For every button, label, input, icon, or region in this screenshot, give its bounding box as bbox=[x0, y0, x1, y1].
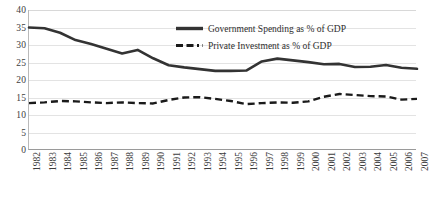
y-axis-tick-label: 15 bbox=[16, 93, 26, 103]
x-axis-tick-label: 1984 bbox=[63, 152, 73, 171]
y-axis-tick-label: 40 bbox=[16, 5, 26, 15]
y-axis-tick-label: 35 bbox=[16, 23, 26, 33]
legend-item-government-spending: Government Spending as % of GDP bbox=[176, 20, 386, 37]
y-axis-tick-label: 20 bbox=[16, 75, 26, 85]
x-axis-tick-label: 1983 bbox=[48, 152, 58, 171]
x-axis-tick-label: 1990 bbox=[156, 152, 166, 171]
y-axis-tick-label: 25 bbox=[16, 58, 26, 68]
legend-label-private-investment: Private Investment as % of GDP bbox=[208, 41, 332, 51]
x-axis-tick-label: 2000 bbox=[311, 152, 321, 171]
x-axis-tick-label: 2006 bbox=[404, 152, 414, 171]
series-private-investment-line bbox=[29, 94, 417, 104]
x-axis-tick-label: 2002 bbox=[342, 152, 352, 171]
x-axis-tick-label: 1994 bbox=[218, 152, 228, 171]
y-axis-tick-label: 10 bbox=[16, 110, 26, 120]
y-axis-tick-label: 0 bbox=[21, 145, 26, 155]
x-axis-tick-label: 1991 bbox=[172, 152, 182, 171]
x-axis-tick-label: 1995 bbox=[234, 152, 244, 171]
x-axis-tick-label: 1992 bbox=[187, 152, 197, 171]
x-axis-tick-label: 2005 bbox=[389, 152, 399, 171]
x-axis-tick-label: 1988 bbox=[125, 152, 135, 171]
x-axis-tick-label: 1998 bbox=[280, 152, 290, 171]
x-axis-tick-label: 2003 bbox=[358, 152, 368, 171]
chart-legend: Government Spending as % of GDP Private … bbox=[176, 20, 386, 54]
x-axis-tick-label: 1982 bbox=[32, 152, 42, 171]
x-axis-tick-labels: 1982198319841985198619871988198919901991… bbox=[28, 152, 416, 197]
x-axis-tick-label: 1985 bbox=[79, 152, 89, 171]
x-axis-tick-label: 2001 bbox=[327, 152, 337, 171]
x-axis-tick-label: 2007 bbox=[420, 152, 430, 171]
x-axis-tick-label: 1986 bbox=[94, 152, 104, 171]
dash-dot-line-swatch bbox=[176, 40, 203, 51]
x-axis-tick-label: 1987 bbox=[110, 152, 120, 171]
x-axis-tick-label: 1996 bbox=[249, 152, 259, 171]
y-axis-tick-labels: 0510152025303540 bbox=[0, 0, 26, 155]
x-axis-tick-label: 2004 bbox=[373, 152, 383, 171]
y-axis-tick-label: 5 bbox=[21, 128, 26, 138]
x-axis-tick-label: 1989 bbox=[141, 152, 151, 171]
y-axis-tick-label: 30 bbox=[16, 40, 26, 50]
x-axis-tick-label: 1999 bbox=[296, 152, 306, 171]
x-axis-tick-label: 1997 bbox=[265, 152, 275, 171]
legend-label-government-spending: Government Spending as % of GDP bbox=[208, 24, 346, 34]
solid-line-swatch bbox=[176, 23, 203, 34]
legend-item-private-investment: Private Investment as % of GDP bbox=[176, 37, 386, 54]
x-axis-tick-label: 1993 bbox=[203, 152, 213, 171]
